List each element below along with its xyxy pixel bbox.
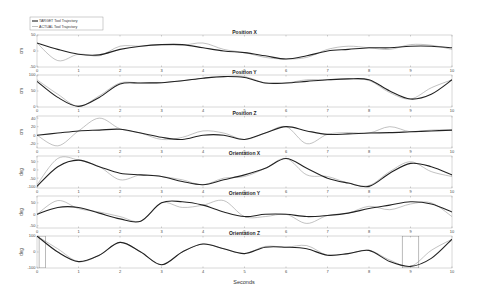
x-tick-label: 2	[119, 68, 122, 73]
y-axis-label: deg	[19, 168, 24, 176]
axes-box	[37, 35, 452, 67]
x-tick-label: 10	[450, 68, 455, 73]
x-tick-label: 8	[368, 108, 371, 113]
y-tick-label: 0	[33, 133, 36, 138]
x-tick-label: 6	[285, 229, 288, 234]
x-tick-label: 1	[77, 269, 80, 274]
x-tick-label: 7	[326, 68, 329, 73]
x-tick-label: 2	[119, 269, 122, 274]
x-tick-label: 0	[36, 229, 39, 234]
x-tick-label: 6	[285, 108, 288, 113]
x-tick-label: 8	[368, 149, 371, 154]
y-axis-label: cm	[19, 48, 24, 54]
legend-actual-label: ACTUAL Tool Trajectory	[39, 25, 78, 29]
x-tick-label: 8	[368, 229, 371, 234]
x-tick-label: 10	[450, 189, 455, 194]
y-axis-label: deg	[19, 208, 24, 216]
x-tick-label: 8	[368, 68, 371, 73]
y-tick-label: -50	[30, 64, 37, 69]
x-tick-label: 7	[326, 269, 329, 274]
x-tick-label: 0	[36, 189, 39, 194]
y-axis-label: deg	[19, 248, 24, 256]
y-tick-label: 0	[33, 249, 36, 254]
x-tick-label: 3	[160, 108, 163, 113]
x-tick-label: 2	[119, 108, 122, 113]
y-tick-label: -100	[27, 265, 36, 270]
y-axis-label: cm	[19, 88, 24, 94]
y-tick-label: 50	[31, 159, 36, 164]
axes-box	[37, 156, 452, 188]
subplot-position-x: 012345678910500-50cmPosition X	[19, 29, 455, 74]
x-tick-label: 5	[243, 269, 246, 274]
x-tick-label: 7	[326, 229, 329, 234]
x-tick-label: 1	[77, 68, 80, 73]
subplot-title: Position Y	[232, 69, 257, 75]
x-tick-label: 2	[119, 189, 122, 194]
x-tick-label: 7	[326, 108, 329, 113]
subplots: 012345678910500-50cmPosition X0123456789…	[19, 29, 455, 275]
x-tick-label: 9	[409, 269, 412, 274]
y-tick-label: 100	[29, 233, 36, 238]
x-tick-label: 0	[36, 149, 39, 154]
legend-target-label: TARGET Tool Trajectory	[39, 19, 78, 23]
x-tick-label: 8	[368, 269, 371, 274]
y-tick-label: 20	[31, 124, 36, 129]
axes-box	[37, 236, 452, 268]
y-tick-label: 0	[33, 48, 36, 53]
x-tick-label: 10	[450, 229, 455, 234]
x-tick-label: 6	[285, 189, 288, 194]
subplot-orientation-z: 0123456789101000-100degOrientation Z	[19, 230, 455, 275]
x-tick-label: 6	[285, 269, 288, 274]
x-tick-label: 3	[160, 189, 163, 194]
x-tick-label: 1	[77, 149, 80, 154]
subplot-orientation-x: 012345678910500-50-100degOrientation X	[19, 150, 455, 195]
x-tick-label: 9	[409, 149, 412, 154]
x-tick-label: 4	[202, 269, 205, 274]
subplot-title: Position X	[232, 29, 257, 35]
axes-box	[37, 116, 452, 148]
x-tick-label: 9	[409, 229, 412, 234]
x-tick-label: 7	[326, 189, 329, 194]
x-tick-label: 0	[36, 269, 39, 274]
y-axis-label: cm	[19, 129, 24, 135]
y-tick-label: -100	[27, 184, 36, 189]
y-tick-label: 50	[31, 200, 36, 205]
x-tick-label: 10	[450, 108, 455, 113]
x-tick-label: 3	[160, 149, 163, 154]
subplot-orientation-y: 012345678910500-50degOrientation Y	[19, 190, 455, 235]
x-tick-label: 9	[409, 68, 412, 73]
subplot-title: Orientation Z	[229, 230, 260, 236]
x-tick-label: 2	[119, 229, 122, 234]
x-tick-label: 1	[77, 229, 80, 234]
x-tick-label: 4	[202, 189, 205, 194]
x-tick-label: 0	[36, 108, 39, 113]
subplot-title: Orientation X	[229, 150, 261, 156]
x-tick-label: 0	[36, 68, 39, 73]
y-tick-label: 0	[33, 212, 36, 217]
subplot-position-y: 012345678910100500cmPosition Y	[19, 69, 455, 114]
x-tick-label: 6	[285, 68, 288, 73]
x-tick-label: 1	[77, 189, 80, 194]
subplot-position-z: 01234567891040200-20cmPosition Z	[19, 110, 455, 155]
x-tick-label: 6	[285, 149, 288, 154]
x-tick-label: 4	[202, 108, 205, 113]
x-tick-label: 3	[160, 269, 163, 274]
x-tick-label: 3	[160, 229, 163, 234]
y-tick-label: 50	[31, 88, 36, 93]
x-tick-label: 2	[119, 149, 122, 154]
subplot-title: Orientation Y	[229, 190, 261, 196]
x-tick-label: 9	[409, 108, 412, 113]
legend: TARGET Tool Trajectory ACTUAL Tool Traje…	[30, 17, 103, 30]
y-tick-label: 0	[33, 167, 36, 172]
y-tick-label: 40	[31, 116, 36, 121]
x-tick-label: 10	[450, 149, 455, 154]
x-tick-label: 9	[409, 189, 412, 194]
y-tick-label: -20	[30, 141, 37, 146]
x-tick-label: 4	[202, 68, 205, 73]
subplot-title: Position Z	[232, 110, 256, 116]
x-tick-label: 7	[326, 149, 329, 154]
x-tick-label: 3	[160, 68, 163, 73]
x-tick-label: 10	[450, 269, 455, 274]
x-axis-label: Seconds	[233, 279, 255, 285]
x-tick-label: 4	[202, 229, 205, 234]
